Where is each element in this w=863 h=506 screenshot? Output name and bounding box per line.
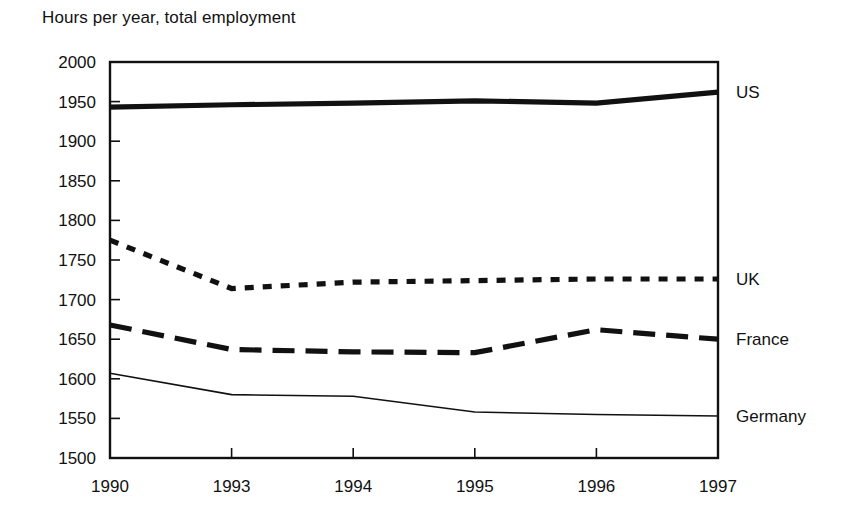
x-tick-label: 1994: [334, 477, 372, 496]
y-tick-label: 2000: [58, 53, 96, 72]
x-tick-label: 1997: [699, 477, 737, 496]
y-tick-label: 1800: [58, 211, 96, 230]
x-tick-label: 1995: [456, 477, 494, 496]
series-label-france: France: [736, 330, 789, 349]
x-tick-label: 1996: [577, 477, 615, 496]
y-tick-label: 1550: [58, 409, 96, 428]
line-chart-svg: 2000195019001850180017501700165016001550…: [0, 0, 863, 506]
series-line-germany: [110, 373, 718, 416]
series-line-uk: [110, 240, 718, 288]
y-tick-label: 1700: [58, 291, 96, 310]
y-tick-label: 1600: [58, 370, 96, 389]
series-line-france: [110, 325, 718, 353]
x-axis-ticks: [232, 448, 597, 458]
y-tick-label: 1900: [58, 132, 96, 151]
chart-container: Hours per year, total employment 2000195…: [0, 0, 863, 506]
x-tick-label: 1990: [91, 477, 129, 496]
y-axis-tick-labels: 2000195019001850180017501700165016001550…: [58, 53, 96, 468]
y-tick-label: 1650: [58, 330, 96, 349]
x-tick-label: 1993: [213, 477, 251, 496]
x-axis-tick-labels: 199019931994199519961997: [91, 477, 737, 496]
series-labels: USUKFranceGermany: [736, 83, 806, 426]
series-label-uk: UK: [736, 270, 760, 289]
y-tick-label: 1750: [58, 251, 96, 270]
y-tick-label: 1950: [58, 93, 96, 112]
series-line-us: [110, 92, 718, 107]
y-axis-ticks: [110, 102, 120, 419]
plot-frame: [110, 62, 718, 458]
series-label-germany: Germany: [736, 407, 806, 426]
y-tick-label: 1500: [58, 449, 96, 468]
y-tick-label: 1850: [58, 172, 96, 191]
series-label-us: US: [736, 83, 760, 102]
series-lines: [110, 92, 718, 416]
